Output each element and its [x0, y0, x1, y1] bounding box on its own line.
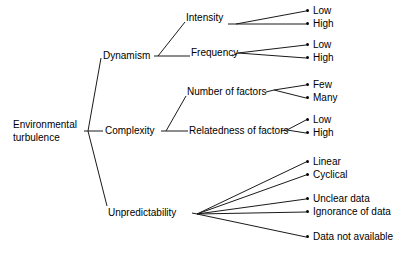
leaf-marker-dot: [306, 197, 309, 200]
edge-root-to-dynamism: [88, 58, 101, 131]
leaf-relatedness-high[interactable]: High: [313, 126, 334, 139]
leaf-marker-dot: [306, 22, 309, 25]
edge-relatedness-to-high: [287, 130, 306, 133]
leaf-marker-dot: [306, 173, 309, 176]
node-root-label-line2: turbulence: [13, 131, 77, 144]
leaf-marker-dot: [306, 235, 309, 238]
leaf-unpredictability-cyclical[interactable]: Cyclical: [313, 168, 347, 181]
edge-frequency-to-low: [238, 45, 306, 53]
leaf-unpredictability-unclear-data[interactable]: Unclear data: [313, 192, 370, 205]
edge-complexity-to-number: [166, 96, 186, 131]
node-relatedness-of-factors[interactable]: Relatedness of factors: [189, 124, 289, 137]
node-frequency[interactable]: Frequency: [191, 46, 238, 59]
edge-number-to-many: [274, 90, 306, 98]
leaf-marker-dot: [306, 96, 309, 99]
edge-number-to-few: [274, 85, 306, 90]
edge-frequency-to-high: [238, 53, 306, 58]
diagram-canvas: Environmental turbulence Dynamism Comple…: [0, 0, 409, 255]
leaf-marker-dot: [306, 56, 309, 59]
edge-dynamism-to-intensity: [158, 22, 185, 56]
leaf-marker-dot: [306, 9, 309, 12]
edge-unpredictability-to-notavailable: [197, 214, 306, 237]
leaf-unpredictability-data-not-available[interactable]: Data not available: [313, 230, 393, 243]
leaf-number-many[interactable]: Many: [313, 91, 337, 104]
node-intensity[interactable]: Intensity: [186, 11, 223, 24]
edge-unpredictability-to-ignorance: [197, 212, 306, 214]
leaf-marker-dot: [306, 210, 309, 213]
leaf-number-few[interactable]: Few: [313, 78, 332, 91]
node-number-of-factors[interactable]: Number of factors: [187, 85, 266, 98]
node-unpredictability[interactable]: Unpredictability: [108, 206, 176, 219]
edge-unpredictability-stem: [192, 213, 197, 214]
leaf-marker-dot: [306, 43, 309, 46]
edge-unpredictability-to-cyclical: [197, 175, 306, 214]
leaf-unpredictability-ignorance-of-data[interactable]: Ignorance of data: [313, 205, 391, 218]
node-root-label-line1: Environmental: [13, 118, 77, 131]
node-dynamism[interactable]: Dynamism: [103, 49, 150, 62]
edge-root-to-unpredictability: [88, 131, 107, 206]
leaf-intensity-low[interactable]: Low: [313, 4, 331, 17]
leaf-intensity-high[interactable]: High: [313, 17, 334, 30]
leaf-marker-dot: [306, 83, 309, 86]
edge-relatedness-to-low: [287, 120, 306, 130]
leaf-marker-dot: [306, 131, 309, 134]
leaf-marker-dot: [306, 160, 309, 163]
leaf-unpredictability-linear[interactable]: Linear: [313, 155, 341, 168]
leaf-frequency-low[interactable]: Low: [313, 38, 331, 51]
node-environmental-turbulence[interactable]: Environmental turbulence: [13, 118, 77, 144]
leaf-marker-dot: [306, 118, 309, 121]
edge-number-stem: [266, 90, 274, 92]
edge-intensity-to-low: [236, 11, 306, 24]
leaf-frequency-high[interactable]: High: [313, 51, 334, 64]
node-complexity[interactable]: Complexity: [105, 124, 154, 137]
leaf-relatedness-low[interactable]: Low: [313, 113, 331, 126]
